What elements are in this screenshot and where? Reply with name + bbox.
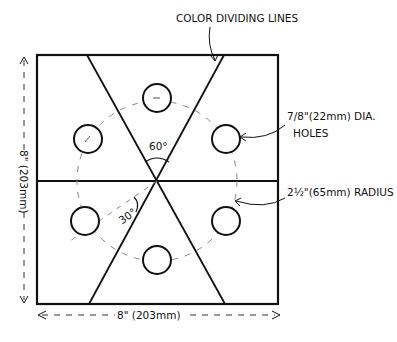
angle-label-60: 60° (149, 140, 168, 152)
label-holes-line1: 7/8"(22mm) DIA. (287, 110, 376, 122)
angle-arc-30 (134, 197, 138, 212)
diagram-canvas: 60° 30° COLOR DIVIDING LINES 7/8"(22mm) … (0, 0, 397, 342)
hole-upper-right (212, 125, 240, 153)
label-height-dim: 8" (203mm) (18, 150, 30, 214)
hole-lower-left (71, 207, 99, 235)
label-color-dividing-lines: COLOR DIVIDING LINES (176, 12, 298, 24)
hole-lower-right (212, 207, 240, 235)
label-radius: 2½"(65mm) RADIUS (287, 186, 394, 198)
label-holes-line2: HOLES (293, 127, 329, 139)
label-width-dim: 8" (203mm) (117, 309, 181, 321)
hole-bottom (143, 246, 171, 274)
angle-label-30: 30° (116, 206, 138, 227)
arrow-right-icon (272, 311, 280, 319)
